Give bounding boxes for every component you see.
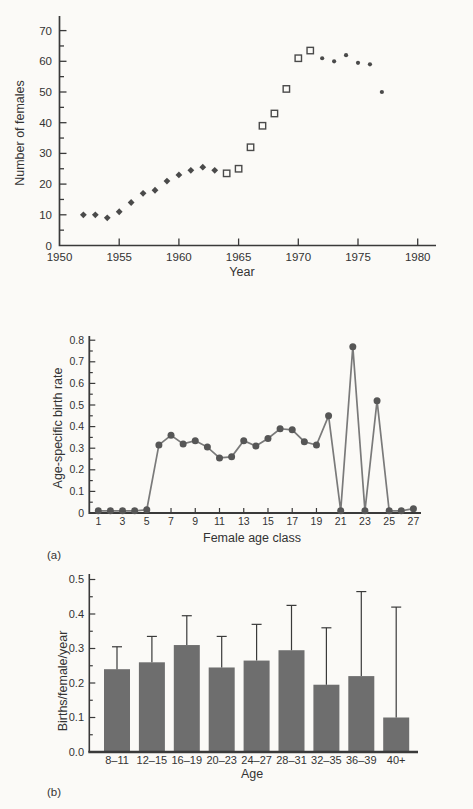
birth-rate-y-axis-label: Age-specific birth rate (51, 368, 65, 489)
svg-text:25: 25 (383, 515, 395, 527)
figure-page: 0102030405060701950195519601965197019751… (0, 0, 473, 809)
bar-12–15 (139, 662, 165, 752)
svg-text:21: 21 (335, 515, 347, 527)
bar-8–11 (104, 669, 130, 752)
births-bar-chart: 0.00.10.20.30.40.58–1112–1516–1920–2324–… (0, 558, 473, 809)
birth-rate-line-chart: 00.10.20.30.40.50.60.70.8135791113151719… (0, 318, 473, 560)
svg-text:9: 9 (192, 515, 198, 527)
population-scatter-chart: 0102030405060701950195519601965197019751… (0, 0, 473, 300)
svg-text:27: 27 (408, 515, 420, 527)
svg-text:0.3: 0.3 (69, 442, 84, 454)
svg-text:0.4: 0.4 (69, 608, 84, 620)
svg-text:1965: 1965 (226, 251, 252, 263)
svg-text:17: 17 (286, 515, 298, 527)
series-late-counts-small-dots (320, 53, 384, 94)
population-y-axis-label: Number of females (13, 80, 27, 186)
svg-text:1980: 1980 (405, 251, 431, 263)
bar-40+ (383, 718, 409, 753)
svg-text:15: 15 (262, 515, 274, 527)
population-x-axis-label: Year (229, 265, 254, 279)
birth-rate-series (95, 343, 417, 514)
svg-text:30: 30 (39, 147, 52, 159)
svg-text:0.6: 0.6 (69, 377, 84, 389)
svg-text:3: 3 (120, 515, 126, 527)
svg-text:12–15: 12–15 (137, 754, 168, 766)
series-early-counts-filled-diamonds (80, 164, 218, 221)
panel-label-b: (b) (47, 786, 61, 798)
svg-text:13: 13 (238, 515, 250, 527)
births-bars (104, 592, 409, 752)
bar-28–31 (279, 650, 305, 752)
svg-text:1955: 1955 (106, 251, 132, 263)
svg-text:11: 11 (214, 515, 225, 527)
svg-text:0.2: 0.2 (69, 463, 84, 475)
svg-text:1960: 1960 (166, 251, 192, 263)
svg-text:0.1: 0.1 (69, 485, 84, 497)
bar-24–27 (244, 661, 270, 752)
bar-16–19 (174, 645, 200, 752)
population-series (80, 47, 384, 221)
series-mid-counts-open-squares (223, 47, 313, 176)
svg-text:0.3: 0.3 (69, 642, 84, 654)
svg-text:0.0: 0.0 (69, 746, 84, 758)
svg-text:0.8: 0.8 (69, 334, 84, 346)
svg-text:7: 7 (168, 515, 174, 527)
svg-text:24–27: 24–27 (241, 754, 272, 766)
svg-text:23: 23 (359, 515, 371, 527)
svg-text:1950: 1950 (47, 251, 73, 263)
svg-text:0.2: 0.2 (69, 677, 84, 689)
svg-text:0: 0 (78, 507, 84, 519)
bar-36–39 (348, 676, 374, 752)
svg-text:0.5: 0.5 (69, 573, 84, 585)
svg-text:28–31: 28–31 (276, 754, 307, 766)
bar-20–23 (209, 667, 235, 752)
birth-rate-x-axis-label: Female age class (203, 531, 301, 545)
svg-text:5: 5 (144, 515, 150, 527)
svg-text:0.7: 0.7 (69, 355, 84, 367)
svg-text:1: 1 (95, 515, 101, 527)
births-bar-y-axis-label: Births/female/year (56, 631, 70, 732)
svg-text:1970: 1970 (286, 251, 312, 263)
population-axes: 0102030405060701950195519601965197019751… (39, 16, 436, 263)
births-bar-x-axis-label: Age (241, 767, 263, 781)
svg-text:20: 20 (39, 178, 52, 190)
svg-text:36–39: 36–39 (346, 754, 377, 766)
svg-text:0.1: 0.1 (69, 711, 84, 723)
svg-text:20–23: 20–23 (206, 754, 237, 766)
svg-text:60: 60 (39, 55, 52, 67)
svg-text:19: 19 (311, 515, 323, 527)
svg-text:0.5: 0.5 (69, 399, 84, 411)
svg-text:0: 0 (46, 240, 52, 252)
svg-text:40: 40 (39, 117, 52, 129)
svg-text:8–11: 8–11 (105, 754, 129, 766)
svg-text:1975: 1975 (345, 251, 371, 263)
svg-text:16–19: 16–19 (172, 754, 203, 766)
svg-text:70: 70 (39, 25, 52, 37)
svg-text:0.4: 0.4 (69, 420, 84, 432)
bar-32–35 (313, 685, 339, 752)
svg-text:10: 10 (39, 209, 52, 221)
svg-text:40+: 40+ (387, 754, 406, 766)
svg-text:50: 50 (39, 86, 52, 98)
birth-rate-axes: 00.10.20.30.40.50.60.70.8135791113151719… (69, 334, 421, 527)
svg-text:32–35: 32–35 (311, 754, 342, 766)
